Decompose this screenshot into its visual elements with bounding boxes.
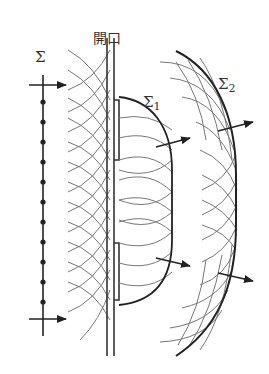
aperture-label: 開口 [93,31,121,45]
wavefront-sigma-1 [119,97,172,305]
sigma-1-base: Σ [143,93,154,111]
incident-wavelets [68,50,110,340]
wavefront-sigma-2 [176,51,236,356]
sigma-1-arrow-bottom [156,258,190,266]
wavefront-sigma-1-label: Σ1 [143,95,161,112]
sigma-1-subscript: 1 [154,100,161,113]
wavefront-sigma-2-label: Σ2 [218,77,236,94]
sigma-2-arrow-bottom [218,273,253,281]
incident-wavefront-label: Σ [35,50,46,65]
sigma-2-base: Σ [218,75,229,93]
incident-wavefront [29,75,66,336]
sigma-2-subscript: 2 [229,82,236,95]
